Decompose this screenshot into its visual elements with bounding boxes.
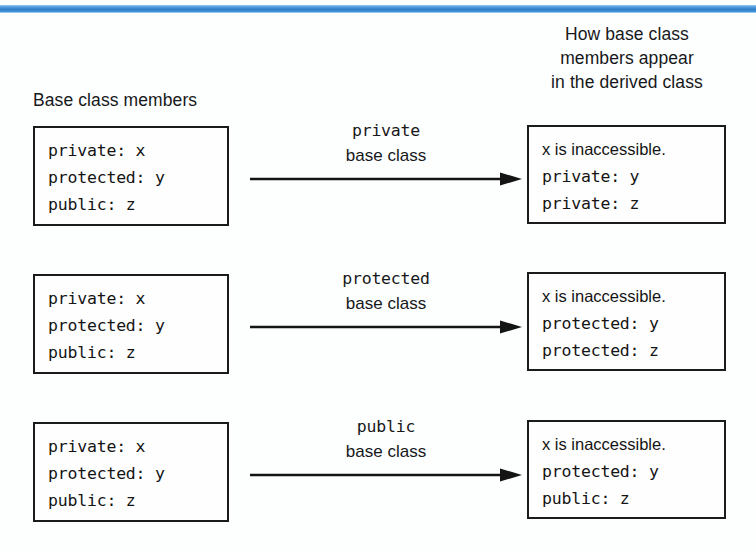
member-line: protected: z — [542, 337, 724, 364]
arrow-label-suffix: base class — [249, 291, 523, 316]
base-class-box: private: x protected: y public: z — [33, 422, 229, 522]
inheritance-keyword: public — [357, 417, 415, 436]
member-line: public: z — [48, 191, 227, 218]
member-line: protected: y — [48, 164, 227, 191]
member-line: private: y — [542, 163, 724, 190]
derived-class-heading: How base class members appear in the der… — [506, 22, 748, 94]
inheritance-keyword: private — [352, 121, 420, 140]
member-line: private: z — [542, 190, 724, 217]
member-line: private: x — [48, 285, 227, 312]
inaccessible-note: x is inaccessible. — [542, 136, 724, 163]
member-line: public: z — [48, 339, 227, 366]
arrow-right-icon — [249, 467, 523, 483]
arrow-label: protected base class — [249, 266, 523, 316]
derived-class-box: x is inaccessible. protected: y protecte… — [527, 272, 726, 371]
arrow-label-suffix: base class — [249, 143, 523, 168]
base-class-box: private: x protected: y public: z — [33, 126, 229, 226]
member-line: protected: y — [48, 312, 227, 339]
member-line: public: z — [48, 487, 227, 514]
top-accent-rule — [0, 5, 756, 13]
base-class-box: private: x protected: y public: z — [33, 274, 229, 374]
member-line: protected: y — [542, 458, 724, 485]
inaccessible-note: x is inaccessible. — [542, 283, 724, 310]
base-class-members-heading: Base class members — [33, 88, 197, 112]
arrow-label: private base class — [249, 118, 523, 168]
inheritance-keyword: protected — [342, 269, 430, 288]
arrow-label-suffix: base class — [249, 439, 523, 464]
arrow-label: public base class — [249, 414, 523, 464]
derived-class-box: x is inaccessible. protected: y public: … — [527, 420, 726, 519]
arrow-right-icon — [249, 319, 523, 335]
derived-class-box: x is inaccessible. private: y private: z — [527, 125, 726, 224]
member-line: protected: y — [542, 310, 724, 337]
member-line: public: z — [542, 485, 724, 512]
arrow-right-icon — [249, 171, 523, 187]
member-line: private: x — [48, 137, 227, 164]
diagram-canvas: Base class members How base class member… — [0, 0, 756, 551]
member-line: private: x — [48, 433, 227, 460]
inaccessible-note: x is inaccessible. — [542, 431, 724, 458]
member-line: protected: y — [48, 460, 227, 487]
